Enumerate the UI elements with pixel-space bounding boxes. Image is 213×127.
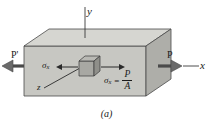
fraction-denominator: A <box>122 81 132 91</box>
sigma-subscript-left: x <box>46 63 49 70</box>
force-arrow-left <box>2 60 24 72</box>
force-label-right: P <box>167 50 173 60</box>
stress-equation: σx = P A <box>104 70 132 91</box>
y-axis-label: y <box>87 6 92 17</box>
figure-caption: (a) <box>0 108 213 119</box>
sigma-subscript-right: x <box>108 79 111 86</box>
stress-element-front-face <box>79 61 94 76</box>
block-top-face <box>24 29 171 46</box>
stress-fraction: P A <box>122 70 132 91</box>
sigma-label-right: σx <box>104 75 111 85</box>
force-label-left: P' <box>11 50 18 60</box>
sigma-label-left: σx <box>42 61 49 71</box>
fraction-numerator: P <box>122 70 132 80</box>
x-axis-label: x <box>200 60 205 71</box>
z-axis-label: z <box>37 83 41 92</box>
figure-container: y x z P' P σx σx = P A (a) <box>0 0 213 127</box>
equals-sign: = <box>113 76 120 86</box>
